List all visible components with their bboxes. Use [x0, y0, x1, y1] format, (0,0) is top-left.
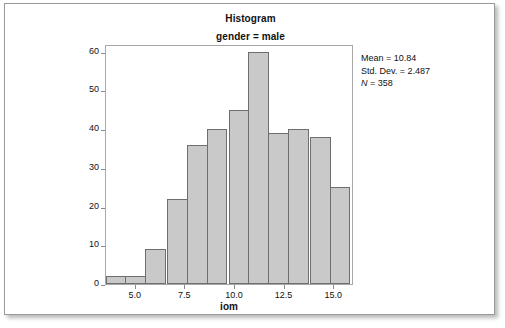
y-axis-tick-label: 0: [94, 278, 99, 288]
stat-n: N = 358: [361, 77, 430, 90]
histogram-bar: [187, 145, 208, 284]
x-axis-tick-label: 12.5: [268, 290, 300, 300]
histogram-bar: [268, 133, 289, 284]
stat-mean: Mean = 10.84: [361, 52, 430, 65]
x-axis-tick-label: 7.5: [168, 290, 200, 300]
stat-n-value: = 358: [368, 78, 393, 88]
chart-title: Histogram: [5, 13, 496, 24]
histogram-bar: [310, 137, 331, 284]
y-axis-tick-label: 40: [89, 123, 99, 133]
histogram-bar: [167, 199, 188, 284]
y-axis-tick-label: 50: [89, 84, 99, 94]
x-axis-title: iom: [105, 301, 353, 312]
x-axis-tick-mark: [333, 285, 334, 289]
figure-frame: Histogram gender = male Frequency 010203…: [4, 3, 495, 315]
histogram-bar: [288, 129, 309, 284]
statistics-annotation: Mean = 10.84 Std. Dev. = 2.487 N = 358: [361, 52, 430, 90]
y-axis-tick-label: 20: [89, 201, 99, 211]
histogram-bar: [125, 276, 146, 284]
x-axis-tick-mark: [284, 285, 285, 289]
histogram-bar: [106, 276, 127, 284]
y-axis: 0102030405060: [73, 45, 105, 285]
histogram-bar: [330, 187, 351, 284]
x-axis-tick-mark: [135, 285, 136, 289]
histogram-bar: [229, 110, 250, 284]
y-axis-tick-label: 10: [89, 239, 99, 249]
x-axis-tick-mark: [234, 285, 235, 289]
histogram-bars: [106, 46, 352, 284]
histogram-bar: [145, 249, 166, 284]
histogram-bar: [207, 129, 228, 284]
plot-area: [105, 45, 353, 285]
x-axis-tick-label: 5.0: [119, 290, 151, 300]
histogram-bar: [248, 52, 269, 284]
stat-std-dev: Std. Dev. = 2.487: [361, 65, 430, 78]
x-axis-tick-label: 10.0: [218, 290, 250, 300]
y-axis-tick-label: 60: [89, 46, 99, 56]
x-axis-tick-mark: [184, 285, 185, 289]
x-axis-tick-label: 15.0: [317, 290, 349, 300]
chart-subtitle: gender = male: [5, 31, 496, 42]
y-axis-tick-label: 30: [89, 162, 99, 172]
